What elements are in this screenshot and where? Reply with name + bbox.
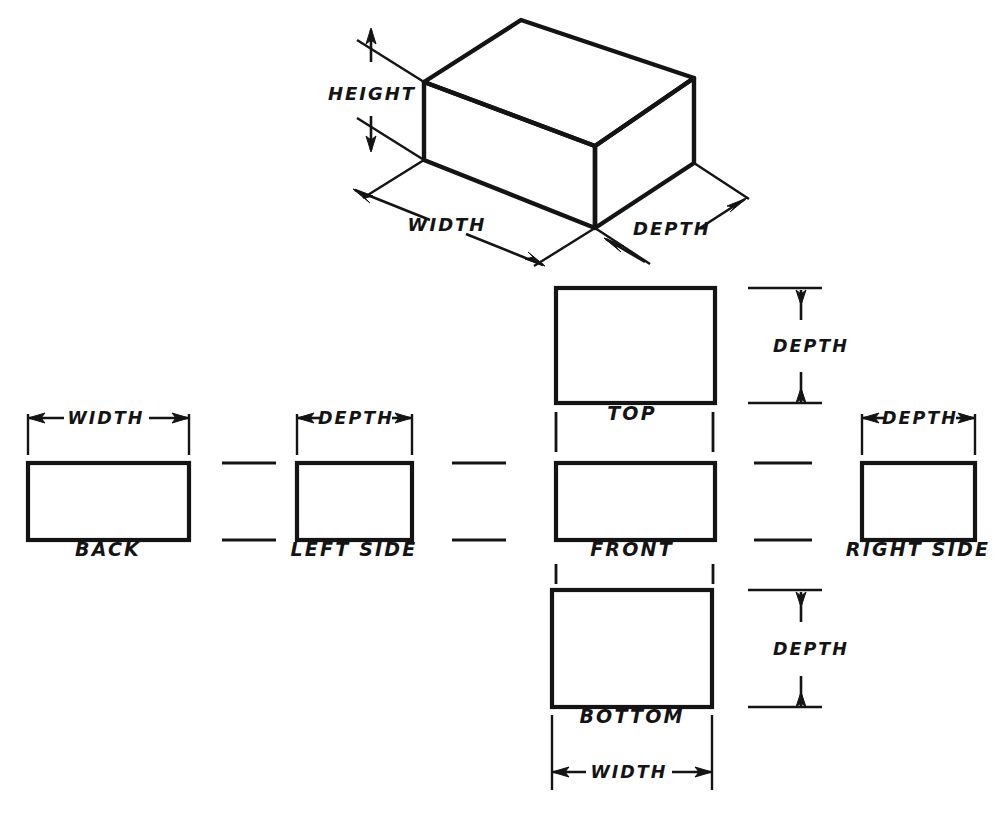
bottom-view-label: BOTTOM (579, 705, 684, 727)
iso-front-face (424, 82, 595, 228)
right-side-depth-dimension: DEPTH (862, 408, 975, 455)
orthographic-views-drawing: HEIGHT WIDTH DEPTH BAC (0, 0, 1001, 816)
view-right-side: RIGHT SIDE DEPTH (846, 408, 990, 560)
iso-height-ext-top (357, 40, 424, 82)
isometric-box (424, 20, 694, 228)
connector-front-to-bottom (556, 564, 713, 584)
iso-height-label: HEIGHT (328, 83, 416, 104)
view-top: TOP DEPTH (556, 288, 849, 424)
front-view-outline (556, 463, 715, 540)
back-width-dimension: WIDTH (28, 408, 189, 455)
technical-drawing-canvas: HEIGHT WIDTH DEPTH BAC (0, 0, 1001, 816)
right-side-view-label: RIGHT SIDE (846, 538, 990, 560)
iso-top-face (424, 20, 694, 146)
connector-back-to-left-side (222, 463, 276, 540)
top-depth-dimension: DEPTH (748, 288, 849, 403)
top-depth-label: DEPTH (773, 336, 849, 356)
iso-width-arrow-left (353, 189, 373, 203)
right-side-depth-label: DEPTH (882, 408, 958, 428)
top-view-label: TOP (607, 402, 657, 424)
iso-depth-label: DEPTH (633, 218, 711, 239)
bottom-depth-label: DEPTH (773, 639, 849, 659)
bottom-view-outline (552, 590, 712, 707)
left-side-depth-dimension: DEPTH (297, 408, 412, 455)
iso-width-label: WIDTH (408, 214, 487, 235)
bottom-depth-dimension: DEPTH (748, 590, 849, 707)
view-back: BACK WIDTH (28, 408, 189, 560)
iso-width-ext-left (363, 160, 424, 198)
iso-width-arrow-right (525, 252, 545, 266)
left-side-depth-label: DEPTH (318, 408, 394, 428)
left-side-view-outline (297, 463, 412, 540)
back-view-label: BACK (75, 538, 141, 560)
top-view-outline (556, 288, 715, 403)
bottom-width-label: WIDTH (591, 762, 668, 782)
connector-front-to-right-side (754, 463, 812, 540)
right-side-view-outline (862, 463, 975, 540)
back-width-label: WIDTH (68, 408, 145, 428)
front-view-label: FRONT (590, 538, 674, 560)
iso-right-face (595, 78, 694, 228)
iso-depth-ext-right (694, 163, 749, 199)
view-front: FRONT (556, 463, 715, 560)
left-side-view-label: LEFT SIDE (291, 538, 418, 560)
view-left-side: LEFT SIDE DEPTH (291, 408, 418, 560)
back-view-outline (28, 463, 189, 540)
iso-height-dimension: HEIGHT (328, 28, 424, 160)
iso-width-ext-right (534, 228, 595, 266)
view-bottom: BOTTOM DEPTH WIDTH (552, 590, 849, 790)
connector-left-side-to-front (452, 463, 506, 540)
